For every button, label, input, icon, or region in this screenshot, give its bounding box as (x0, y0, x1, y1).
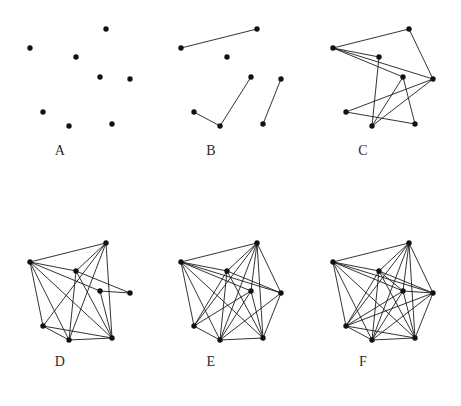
graph-edge (181, 29, 257, 48)
panel-b (178, 26, 283, 128)
graph-edge (379, 271, 403, 291)
graph-node (103, 240, 108, 245)
graph-edge (257, 243, 263, 338)
panel-label-b: B (191, 143, 231, 159)
graph-edge (257, 243, 281, 293)
graph-node (127, 76, 132, 81)
graph-edge (409, 243, 415, 338)
graph-edge (76, 271, 130, 293)
graph-edge (263, 79, 281, 124)
graph-node (66, 337, 71, 342)
graph-edge (346, 112, 415, 124)
graph-node (412, 121, 417, 126)
graph-edge (409, 243, 433, 293)
graph-edge (333, 29, 409, 48)
graph-node (248, 288, 253, 293)
graph-node (412, 335, 417, 340)
graph-edge (30, 262, 76, 271)
graph-edge (409, 29, 433, 79)
panel-e (178, 240, 283, 342)
graph-node (248, 74, 253, 79)
graph-canvas (0, 0, 461, 406)
graph-node (343, 109, 348, 114)
graph-node (191, 109, 196, 114)
graph-node (343, 323, 348, 328)
graph-edge (30, 262, 69, 340)
graph-edge (194, 291, 251, 326)
graph-node (191, 323, 196, 328)
graph-node (406, 26, 411, 31)
graph-node (430, 290, 435, 295)
graph-node (97, 288, 102, 293)
panel-label-c: C (343, 143, 383, 159)
graph-edge (346, 291, 403, 326)
graph-node (224, 54, 229, 59)
graph-edge (379, 271, 433, 293)
graph-edge (106, 243, 112, 338)
graph-node (376, 54, 381, 59)
graph-node (406, 240, 411, 245)
panel-a (27, 26, 132, 128)
graph-node (369, 123, 374, 128)
graph-edge (333, 48, 403, 77)
graph-node (278, 290, 283, 295)
graph-node (27, 259, 32, 264)
graph-edge (333, 262, 346, 326)
graph-node (217, 123, 222, 128)
graph-edge (181, 262, 227, 271)
graph-node (27, 45, 32, 50)
graph-edge (76, 271, 112, 338)
graph-node (103, 26, 108, 31)
graph-edge (333, 243, 409, 262)
graph-node (73, 54, 78, 59)
graph-node (330, 259, 335, 264)
graph-node (127, 290, 132, 295)
graph-node (40, 109, 45, 114)
graph-edge (346, 79, 433, 112)
graph-node (178, 259, 183, 264)
panel-label-a: A (40, 143, 80, 159)
graph-edge (227, 271, 263, 338)
graph-node (109, 335, 114, 340)
graph-edge (372, 57, 379, 126)
graph-node (369, 337, 374, 342)
graph-edge (220, 77, 251, 126)
graph-node (260, 121, 265, 126)
panel-d (27, 240, 132, 342)
graph-edge (333, 262, 379, 271)
graph-node (97, 74, 102, 79)
graph-node (73, 268, 78, 273)
graph-edge (181, 262, 194, 326)
graph-edge (220, 338, 263, 340)
figure-panel-grid: A B C D E F (0, 0, 461, 406)
graph-edge (194, 112, 220, 126)
graph-node (40, 323, 45, 328)
graph-node (400, 288, 405, 293)
panel-label-f: F (343, 354, 383, 370)
graph-edge (372, 338, 415, 340)
graph-edge (379, 271, 415, 338)
graph-node (254, 26, 259, 31)
graph-node (254, 240, 259, 245)
graph-node (400, 74, 405, 79)
graph-node (109, 121, 114, 126)
panel-c (330, 26, 435, 128)
graph-edge (372, 79, 433, 126)
graph-edge (30, 243, 106, 262)
panel-label-d: D (40, 354, 80, 370)
panel-label-e: E (191, 354, 231, 370)
graph-node (217, 337, 222, 342)
graph-edge (181, 262, 220, 340)
graph-edge (333, 48, 433, 79)
graph-edge (333, 262, 372, 340)
graph-node (278, 76, 283, 81)
graph-node (66, 123, 71, 128)
graph-edge (181, 243, 257, 262)
graph-node (178, 45, 183, 50)
graph-node (260, 335, 265, 340)
graph-node (376, 268, 381, 273)
panel-f (330, 240, 435, 342)
graph-edge (333, 48, 379, 57)
graph-edge (69, 338, 112, 340)
graph-node (224, 268, 229, 273)
